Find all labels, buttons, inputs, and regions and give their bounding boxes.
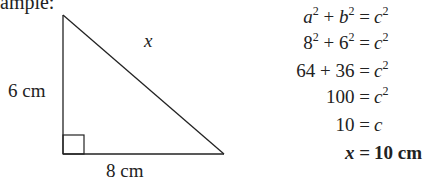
equation-rhs: 10 cm [374,142,422,164]
equation-rhs: c2 [374,32,388,54]
equals-sign: = [355,60,370,81]
exponent: 2 [382,58,388,72]
equals-sign: = [355,32,370,53]
horizontal-side-label: 8 cm [106,160,143,182]
equation-term: 100 [326,86,355,107]
equation-term: + [319,6,339,27]
equals-sign: = [355,6,370,27]
equation-term: 8 [303,32,313,53]
equation-term: x [345,142,355,163]
equation-lhs: 64 + 36 = [296,60,370,82]
equation-rhs: c2 [374,6,388,28]
exponent: 2 [382,30,388,44]
equation-rhs: c2 [374,86,388,108]
exponent: 2 [382,84,388,98]
equation-term: 10 [336,114,355,135]
exponent: 2 [382,4,388,18]
right-angle-marker [63,135,84,154]
equation-lhs: a2 + b2 = [303,6,370,28]
equation-term: 64 + 36 [296,60,354,81]
equals-sign: = [355,114,370,135]
hypotenuse-label: x [144,30,152,52]
equation-term: b [339,6,349,27]
equation-lhs: x = [345,142,370,164]
equals-sign: = [355,86,370,107]
equation-lhs: 100 = [326,86,370,108]
equals-sign: = [354,142,370,163]
equation-lhs: 82 + 62 = [303,32,370,54]
equation-term: 10 cm [374,142,422,163]
equation-rhs: c [374,114,382,136]
equation-term: c [374,114,382,135]
equation-rhs: c2 [374,60,388,82]
equation-term: + 6 [319,32,349,53]
equation-term: a [303,6,313,27]
equation-lhs: 10 = [336,114,370,136]
vertical-side-label: 6 cm [8,80,45,102]
